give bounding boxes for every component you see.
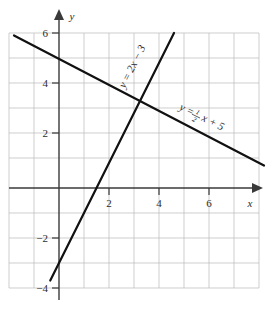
- shallow-eq-fraction-denominator: 2: [191, 115, 198, 124]
- y-tick-label-2: 2: [43, 127, 49, 139]
- coordinate-graph: 2 4 6 6 4 2 −2 −4 x y y = 2x − 3 y = 1 2…: [0, 0, 272, 311]
- shallow-eq-suffix: x + 5: [199, 111, 227, 133]
- y-axis-label: y: [69, 10, 75, 22]
- y-tick-label-neg4: −4: [36, 282, 48, 294]
- y-tick-label-4: 4: [43, 77, 49, 89]
- y-axis-arrow-icon: [54, 9, 64, 20]
- x-axis-tick-marks: [109, 188, 209, 195]
- y-tick-label-neg2: −2: [36, 232, 48, 244]
- x-axis: [9, 183, 263, 193]
- shallow-line-equation-label: y = 1 2 x + 5: [175, 100, 227, 137]
- x-tick-label-4: 4: [156, 197, 162, 209]
- line-y-equals-2x-minus-3: [50, 33, 174, 281]
- x-axis-arrow-icon: [252, 183, 263, 193]
- x-axis-tick-labels: 2 4 6: [106, 197, 212, 209]
- y-tick-label-6: 6: [43, 27, 49, 39]
- x-tick-label-6: 6: [206, 197, 212, 209]
- x-axis-label: x: [247, 197, 253, 209]
- x-tick-label-2: 2: [106, 197, 112, 209]
- y-axis-tick-marks: [52, 33, 59, 288]
- y-axis-tick-labels: 6 4 2 −2 −4: [36, 27, 48, 294]
- graph-canvas: 2 4 6 6 4 2 −2 −4 x y y = 2x − 3 y = 1 2…: [0, 0, 272, 311]
